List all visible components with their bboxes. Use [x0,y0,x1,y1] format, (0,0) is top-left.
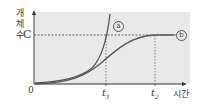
origin-label: 0 [28,85,34,95]
y-axis-arrow-icon [32,10,36,15]
curve-a-marker: a [113,21,124,32]
y-label-char: 개 [14,8,26,19]
curve-b-marker: b [176,30,187,41]
curve-a [35,14,110,83]
t2-label: t2 [151,88,159,102]
x-axis-label: 시간 [173,89,189,99]
x-axis-arrow-icon [182,82,187,86]
t1-label: t1 [102,88,110,102]
c-label: C [23,30,31,40]
t1-sub: 1 [106,93,110,100]
t2-sub: 2 [155,93,159,100]
